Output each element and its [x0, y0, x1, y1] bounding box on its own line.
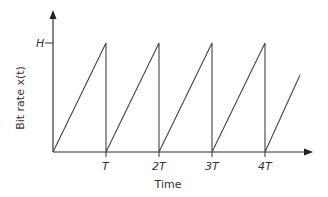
h-tick-label: H — [36, 37, 44, 50]
y-axis-title: Bit rate x(t) — [14, 66, 27, 130]
sawtooth-chart: H T 2T 3T 4T Time Bit rate x(t) — [0, 0, 328, 197]
y-axis-arrow-icon — [50, 10, 57, 19]
x-axis-title: Time — [154, 178, 182, 191]
x-axis-arrow-icon — [304, 149, 313, 156]
tick-label-T: T — [102, 160, 110, 173]
tick-label-4T: 4T — [258, 160, 273, 173]
tick-label-2T: 2T — [152, 160, 167, 173]
tick-label-3T: 3T — [205, 160, 220, 173]
sawtooth-series — [53, 43, 300, 152]
